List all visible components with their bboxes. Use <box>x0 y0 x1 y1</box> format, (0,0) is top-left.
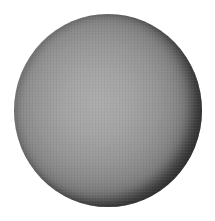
gray-sphere <box>14 14 202 207</box>
image-canvas <box>0 0 215 221</box>
